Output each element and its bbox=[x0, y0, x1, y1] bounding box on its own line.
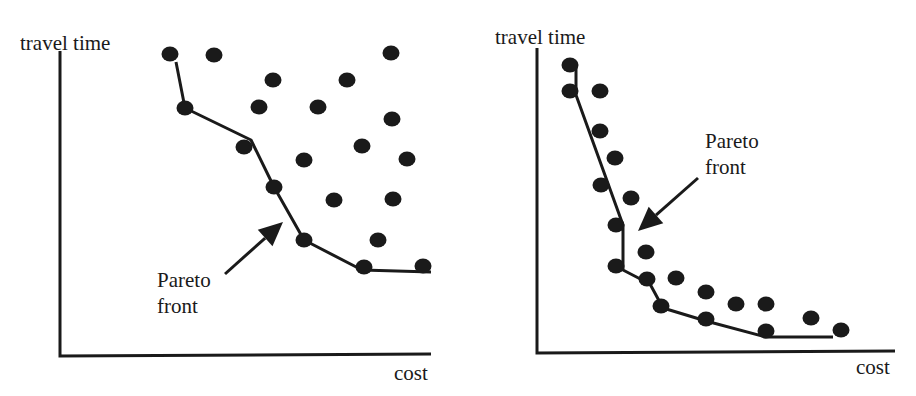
data-point bbox=[833, 323, 850, 338]
data-point bbox=[339, 73, 356, 88]
data-point bbox=[399, 152, 416, 167]
right-pareto-annotation-line2: front bbox=[705, 155, 746, 179]
data-point bbox=[251, 100, 268, 115]
pareto-front-figure: travel time cost Pareto front travel tim… bbox=[0, 0, 916, 396]
data-point bbox=[266, 180, 283, 195]
data-point bbox=[758, 297, 775, 312]
left-pareto-annotation-line2: front bbox=[157, 294, 198, 318]
right-pareto-annotation-line1: Pareto bbox=[705, 129, 759, 153]
data-point bbox=[803, 311, 820, 326]
data-point bbox=[607, 151, 624, 166]
data-point bbox=[593, 178, 610, 193]
data-point bbox=[296, 153, 313, 168]
data-point bbox=[206, 48, 223, 63]
data-point bbox=[608, 259, 625, 274]
right-y-axis-label: travel time bbox=[495, 25, 585, 49]
data-point bbox=[608, 218, 625, 233]
right-x-axis-label: cost bbox=[856, 355, 890, 379]
left-x-axis-label: cost bbox=[394, 361, 428, 385]
data-point bbox=[668, 271, 685, 286]
data-point bbox=[639, 272, 656, 287]
data-point bbox=[265, 73, 282, 88]
data-point bbox=[383, 46, 400, 61]
data-point bbox=[385, 192, 402, 207]
right-axes bbox=[537, 48, 895, 353]
data-point bbox=[177, 101, 194, 116]
data-point bbox=[354, 139, 371, 154]
data-point bbox=[162, 47, 179, 62]
data-point bbox=[592, 84, 609, 99]
data-point bbox=[698, 312, 715, 327]
data-point bbox=[326, 193, 343, 208]
data-point bbox=[728, 297, 745, 312]
data-point bbox=[296, 233, 313, 248]
data-point bbox=[370, 233, 387, 248]
data-point bbox=[415, 259, 432, 274]
left-axes bbox=[60, 51, 431, 356]
data-point bbox=[653, 299, 670, 314]
data-point bbox=[592, 124, 609, 139]
data-point bbox=[698, 285, 715, 300]
right-arrow-shaft bbox=[656, 178, 698, 215]
left-arrow-shaft bbox=[225, 238, 265, 274]
data-point bbox=[310, 100, 327, 115]
right-panel-scatter bbox=[537, 48, 895, 353]
left-pareto-annotation-line1: Pareto bbox=[157, 268, 211, 292]
data-point bbox=[638, 245, 655, 260]
data-point bbox=[623, 191, 640, 206]
data-point bbox=[562, 84, 579, 99]
data-point bbox=[356, 260, 373, 275]
left-panel-scatter bbox=[60, 46, 432, 357]
data-point bbox=[562, 58, 579, 73]
data-point bbox=[758, 324, 775, 339]
data-point bbox=[384, 112, 401, 127]
left-y-axis-label: travel time bbox=[20, 31, 110, 55]
data-point bbox=[236, 140, 253, 155]
